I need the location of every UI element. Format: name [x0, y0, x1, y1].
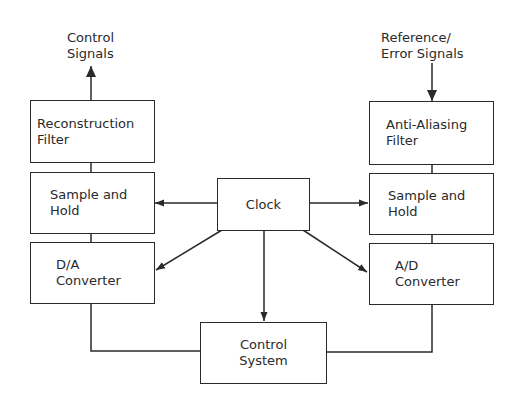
block-label: Clock [246, 197, 281, 213]
block-label: Converter [395, 274, 493, 290]
block-label: Sample and [388, 188, 493, 204]
da-converter-block: D/A Converter [30, 242, 155, 304]
reference-signals-line2: Error Signals [381, 46, 464, 62]
reference-signals-line1: Reference/ [381, 30, 464, 46]
reference-error-signals-label: Reference/ Error Signals [381, 30, 464, 62]
block-label: Filter [386, 133, 493, 149]
block-label: System [239, 353, 287, 369]
block-label: Hold [50, 203, 154, 219]
block-label: D/A [56, 257, 154, 273]
sample-and-hold-right-block: Sample and Hold [369, 173, 494, 235]
control-system-block: Control System [200, 322, 327, 384]
clock-block: Clock [217, 178, 310, 231]
block-label: Sample and [50, 187, 154, 203]
block-label: Hold [388, 204, 493, 220]
sample-and-hold-left-block: Sample and Hold [30, 172, 155, 234]
block-label: Converter [56, 273, 154, 289]
control-signals-line2: Signals [67, 46, 114, 62]
control-signals-label: Control Signals [67, 30, 114, 62]
block-label: Reconstruction [37, 116, 154, 132]
anti-aliasing-filter-block: Anti-Aliasing Filter [369, 101, 494, 165]
control-signals-line1: Control [67, 30, 114, 46]
block-label: Control [240, 337, 287, 353]
ad-converter-block: A/D Converter [369, 243, 494, 305]
block-label: Anti-Aliasing [386, 117, 493, 133]
block-diagram: Control Signals Reference/ Error Signals… [0, 0, 520, 408]
block-label: A/D [395, 258, 493, 274]
reconstruction-filter-block: Reconstruction Filter [30, 100, 155, 163]
block-label: Filter [37, 132, 154, 148]
